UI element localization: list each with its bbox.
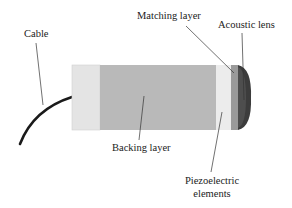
matching-layer — [231, 65, 238, 130]
end-cap — [72, 65, 100, 130]
backing-layer-label: Backing layer — [112, 142, 171, 154]
piezoelectric-elements — [216, 65, 231, 130]
cable-leader — [36, 43, 43, 105]
acoustic-lens-label: Acoustic lens — [218, 19, 275, 31]
backing-layer — [100, 65, 216, 130]
cable — [20, 97, 72, 144]
piezoelectric-label-line2: elements — [182, 188, 242, 200]
matching-layer-label: Matching layer — [137, 10, 201, 22]
cable-label: Cable — [24, 28, 49, 40]
piezoelectric-label-line1: Piezoelectric — [182, 175, 242, 187]
